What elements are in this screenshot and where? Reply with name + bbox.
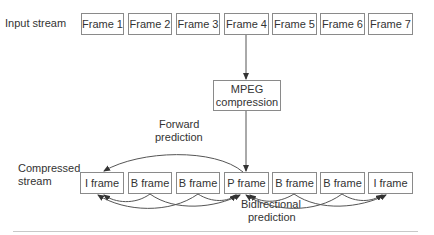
- arrow-b1-to-i1: [104, 194, 150, 202]
- forward-prediction-arrow: [104, 155, 243, 172]
- bottom-divider: [13, 231, 418, 232]
- arrow-b4-to-p: [246, 194, 342, 208]
- arrows-layer: [0, 0, 434, 235]
- arrow-b3-to-p: [250, 194, 294, 201]
- arrow-b2-to-i1: [98, 194, 198, 208]
